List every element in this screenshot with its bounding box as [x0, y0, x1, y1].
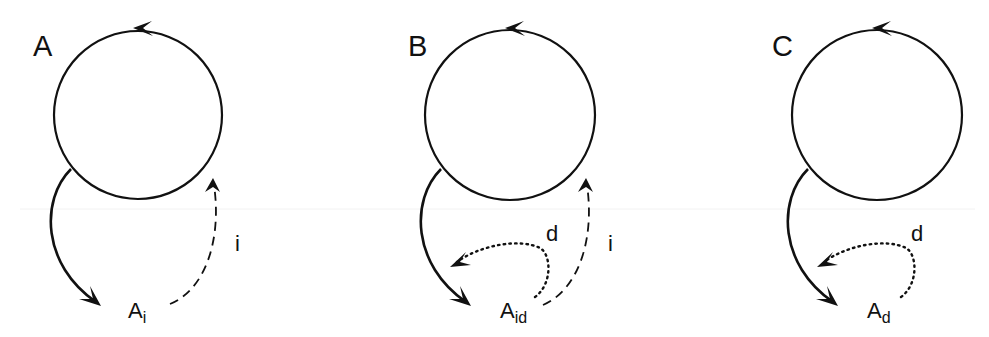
detour-arc-dotted-b — [457, 243, 548, 297]
return-arrow-icon-a — [205, 178, 220, 192]
detour-arc-dotted-c — [824, 243, 914, 297]
panel-label-a: A — [33, 30, 53, 62]
cycle-arrow-icon-b — [505, 21, 525, 36]
panel-c: C d Ad — [772, 21, 962, 326]
panel-label-b: B — [408, 30, 427, 62]
panel-b: B d i Aid — [408, 21, 613, 326]
panel-label-c: C — [772, 30, 793, 62]
edge-label-i-b: i — [608, 231, 613, 256]
diagram-canvas: A i Ai B d i Aid — [0, 0, 989, 337]
detour-arrow-icon-c — [817, 252, 838, 267]
cycle-circle-c — [792, 30, 962, 200]
node-label-c: Ad — [867, 298, 891, 326]
exit-arc-b — [421, 169, 466, 302]
edge-label-i-a: i — [235, 231, 240, 256]
return-arrow-icon-b — [578, 178, 593, 192]
detour-arrow-icon-b — [450, 252, 471, 267]
exit-arc-c — [788, 169, 833, 302]
return-arc-dashed-a — [170, 185, 216, 304]
cycle-circle-b — [425, 30, 595, 200]
exit-arc-a — [51, 169, 96, 302]
cycle-arrow-icon-a — [133, 21, 153, 36]
edge-label-d-b: d — [546, 221, 558, 246]
diagram-svg: A i Ai B d i Aid — [0, 0, 989, 337]
edge-label-d-c: d — [911, 221, 923, 246]
panel-a: A i Ai — [33, 21, 240, 326]
cycle-circle-a — [54, 31, 222, 199]
cycle-arrow-icon-c — [872, 21, 892, 36]
node-label-b: Aid — [500, 298, 527, 326]
node-label-a: Ai — [128, 298, 146, 326]
